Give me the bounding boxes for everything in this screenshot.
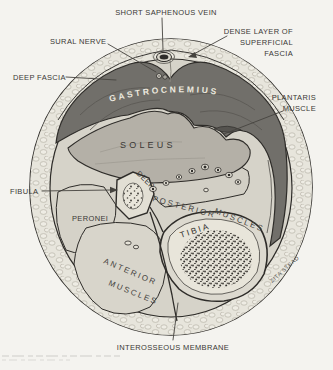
- label-sural-nerve: SURAL NERVE: [50, 37, 106, 46]
- fibula-marrow: [123, 183, 143, 209]
- svg-text:FASCIA: FASCIA: [264, 49, 293, 58]
- label-deep-fascia: DEEP FASCIA: [13, 73, 66, 82]
- label-interosseous-membrane: INTEROSSEOUS MEMBRANE: [117, 343, 229, 352]
- label-soleus: SOLEUS: [120, 140, 176, 150]
- label-peronei: PERONEI: [72, 214, 108, 223]
- label-fibula: FIBULA: [10, 187, 38, 196]
- short-saphenous-vein-lumen: [160, 55, 169, 60]
- tibia-marrow: [180, 230, 252, 288]
- svg-text:MUSCLE: MUSCLE: [283, 104, 316, 113]
- leg-cross-section-illustration: SHORT SAPHENOUS VEIN SURAL NERVE DENSE L…: [0, 0, 333, 370]
- anterior-vessel-1: [125, 241, 131, 245]
- svg-text:SUPERFICIAL: SUPERFICIAL: [240, 38, 293, 47]
- label-short-saphenous-vein: SHORT SAPHENOUS VEIN: [115, 8, 217, 17]
- svg-text:DENSE LAYER OF: DENSE LAYER OF: [224, 27, 293, 36]
- anterior-vessel-2: [133, 245, 138, 249]
- svg-text:PLANTARIS: PLANTARIS: [272, 93, 316, 102]
- figure-root: SHORT SAPHENOUS VEIN SURAL NERVE DENSE L…: [0, 0, 333, 370]
